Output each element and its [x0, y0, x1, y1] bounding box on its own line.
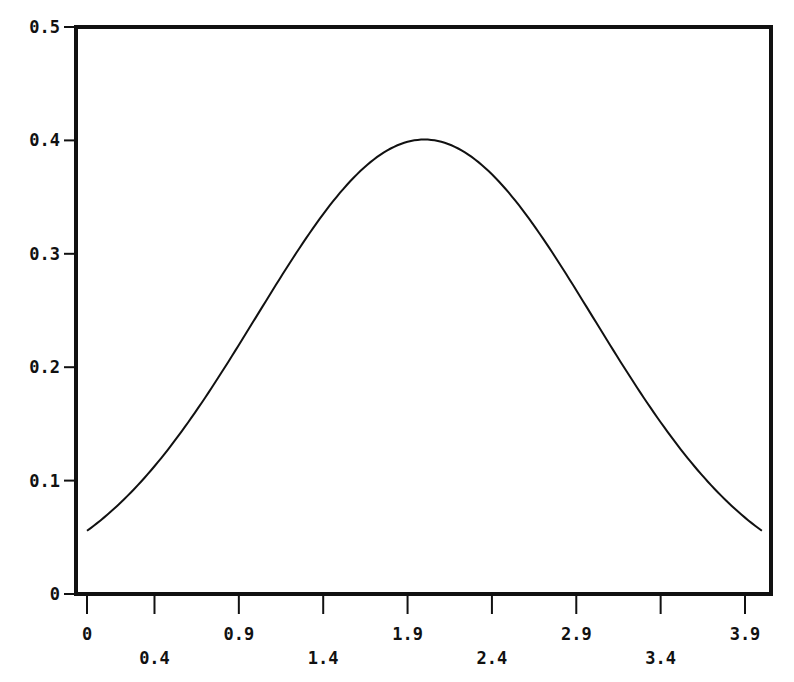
x-axis: 00.40.91.41.92.42.93.43.9 — [82, 594, 760, 668]
x-tick-label: 3.4 — [645, 648, 676, 668]
x-tick-label: 0.4 — [139, 648, 170, 668]
y-tick-label: 0.4 — [29, 130, 60, 150]
plot-frame — [76, 27, 771, 594]
x-tick-label: 2.9 — [561, 624, 592, 644]
density-curve — [87, 140, 762, 531]
x-tick-label: 0.9 — [223, 624, 254, 644]
y-tick-label: 0.5 — [29, 17, 60, 37]
y-tick-label: 0 — [50, 584, 60, 604]
x-tick-label: 3.9 — [730, 624, 761, 644]
x-tick-label: 2.4 — [477, 648, 508, 668]
y-axis: 00.10.20.30.40.5 — [29, 17, 76, 604]
x-tick-label: 0 — [82, 624, 92, 644]
x-tick-label: 1.4 — [308, 648, 339, 668]
x-tick-label: 1.9 — [392, 624, 423, 644]
y-tick-label: 0.3 — [29, 244, 60, 264]
y-tick-label: 0.1 — [29, 471, 60, 491]
y-tick-label: 0.2 — [29, 357, 60, 377]
line-chart: 00.10.20.30.40.5 00.40.91.41.92.42.93.43… — [0, 0, 794, 682]
